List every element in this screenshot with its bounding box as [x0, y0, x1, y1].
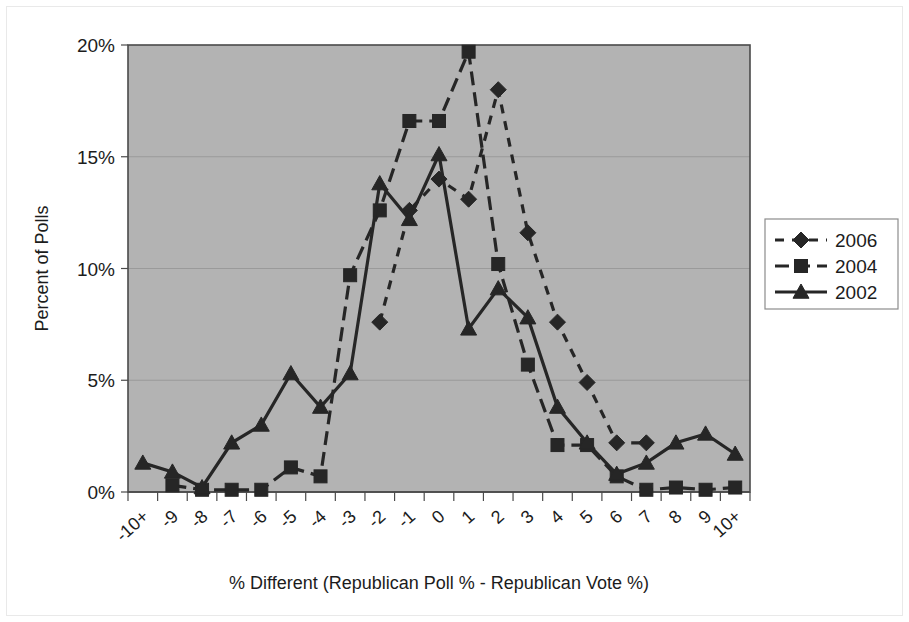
legend-label-2002: 2002 [835, 282, 877, 303]
marker-2004-2 [492, 258, 505, 271]
marker-2004-4 [551, 439, 564, 452]
x-tick-label-20: 10+ [709, 506, 745, 541]
x-tick-label-9: -1 [394, 506, 419, 532]
marker-2004--1 [403, 114, 416, 127]
x-tick-label-5: -5 [275, 506, 300, 532]
line-chart: 0%5%10%15%20%Percent of Polls-10+-9-8-7-… [0, 0, 909, 622]
marker-2004-0 [433, 114, 446, 127]
x-tick-label-17: 7 [635, 506, 656, 528]
x-tick-label-6: -4 [305, 506, 330, 532]
marker-2004--5 [284, 461, 297, 474]
marker-2004--7 [225, 483, 238, 496]
x-tick-label-18: 8 [665, 506, 686, 528]
marker-2004-10+ [729, 481, 742, 494]
x-tick-label-11: 1 [457, 506, 478, 528]
legend: 200620042002 [765, 219, 898, 309]
marker-2004-7 [640, 483, 653, 496]
marker-2004-1 [462, 45, 475, 58]
marker-2004--4 [314, 470, 327, 483]
y-tick-label-10: 10% [77, 259, 115, 280]
marker-2004-3 [521, 358, 534, 371]
legend-label-2006: 2006 [835, 230, 877, 251]
x-tick-label-16: 6 [606, 506, 627, 528]
x-tick-label-10: 0 [428, 506, 449, 528]
x-tick-label-0: -10+ [112, 506, 153, 545]
y-tick-label-5: 5% [88, 370, 116, 391]
x-tick-label-12: 2 [487, 506, 508, 528]
x-tick-label-15: 5 [576, 506, 597, 528]
marker-2004--6 [255, 483, 268, 496]
marker-2004-9 [699, 483, 712, 496]
x-tick-label-3: -7 [216, 506, 241, 532]
x-tick-label-1: -9 [157, 506, 182, 532]
x-axis-title: % Different (Republican Poll % - Republi… [229, 573, 649, 593]
legend-marker-2004 [795, 260, 808, 273]
x-tick-label-14: 4 [546, 506, 567, 528]
x-tick-label-8: -2 [364, 506, 389, 532]
legend-box [765, 219, 898, 309]
marker-2004--3 [344, 269, 357, 282]
x-tick-label-4: -6 [246, 506, 271, 532]
y-tick-label-15: 15% [77, 147, 115, 168]
marker-2004--9 [166, 479, 179, 492]
legend-label-2004: 2004 [835, 256, 878, 277]
x-tick-label-2: -8 [186, 506, 211, 532]
x-tick-label-13: 3 [517, 506, 538, 528]
y-tick-label-0: 0% [88, 482, 116, 503]
x-tick-label-7: -3 [335, 506, 360, 532]
y-axis-title: Percent of Polls [32, 205, 52, 331]
chart-figure: 0%5%10%15%20%Percent of Polls-10+-9-8-7-… [0, 0, 909, 622]
marker-2004-8 [669, 481, 682, 494]
y-tick-label-20: 20% [77, 35, 115, 56]
